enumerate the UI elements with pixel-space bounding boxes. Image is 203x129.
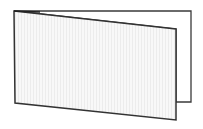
- folded-card-icon: [0, 0, 203, 129]
- card-front-panel: [14, 11, 176, 120]
- card-fold-edge: [14, 11, 40, 12]
- folded-card-illustration: [0, 0, 203, 129]
